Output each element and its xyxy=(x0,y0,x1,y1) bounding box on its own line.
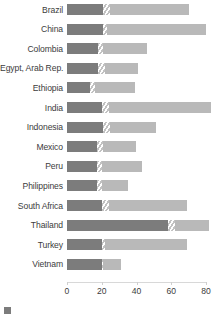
bar-brazil[interactable] xyxy=(65,4,222,15)
bar-segment-light xyxy=(105,63,138,74)
chart-legend xyxy=(4,306,222,314)
chart-row: Peru xyxy=(0,161,222,172)
x-axis-tick xyxy=(206,282,207,285)
bar-segment-light xyxy=(105,239,187,250)
bar-segment-dark xyxy=(67,200,102,211)
bar-south-africa[interactable] xyxy=(65,200,222,211)
category-label-china: China xyxy=(0,24,65,34)
category-label-south-africa: South Africa xyxy=(0,201,65,211)
plot-area: BrazilChinaColombiaEgypt, Arab Rep.Ethio… xyxy=(0,0,222,282)
bar-segment-light xyxy=(107,24,206,35)
bar-segment-dark xyxy=(67,43,98,54)
bar-indonesia[interactable] xyxy=(65,122,222,133)
chart-row: China xyxy=(0,24,222,35)
bar-segment-light xyxy=(110,122,155,133)
bar-segment-light xyxy=(102,161,142,172)
category-label-vietnam: Vietnam xyxy=(0,259,65,269)
bar-segment-dark xyxy=(67,63,98,74)
chart-row: Mexico xyxy=(0,141,222,152)
bar-segment-light xyxy=(102,180,128,191)
chart-row: Colombia xyxy=(0,43,222,54)
category-label-brazil: Brazil xyxy=(0,5,65,15)
chart-row: Turkey xyxy=(0,239,222,250)
bar-segment-hatched xyxy=(102,102,109,113)
x-axis-tick xyxy=(137,282,138,285)
x-axis-tick-label: 0 xyxy=(65,286,70,296)
chart-row: Thailand xyxy=(0,220,222,231)
bar-segment-light xyxy=(109,200,187,211)
bar-peru[interactable] xyxy=(65,161,222,172)
category-label-mexico: Mexico xyxy=(0,142,65,152)
category-label-thailand: Thailand xyxy=(0,220,65,230)
x-axis-tick-label: 20 xyxy=(97,286,107,296)
category-label-indonesia: Indonesia xyxy=(0,122,65,132)
bar-india[interactable] xyxy=(65,102,222,113)
chart-row: Vietnam xyxy=(0,259,222,270)
x-axis-tick-label: 60 xyxy=(166,286,176,296)
bar-segment-dark xyxy=(67,239,102,250)
bar-segment-hatched xyxy=(98,63,105,74)
bar-ethiopia[interactable] xyxy=(65,82,222,93)
bar-segment-dark xyxy=(67,161,97,172)
bar-segment-hatched xyxy=(168,220,175,231)
category-label-colombia: Colombia xyxy=(0,44,65,54)
bar-china[interactable] xyxy=(65,24,222,35)
bar-segment-light xyxy=(103,43,146,54)
category-label-egypt-arab-rep: Egypt, Arab Rep. xyxy=(0,63,65,73)
category-label-turkey: Turkey xyxy=(0,240,65,250)
x-axis-tick xyxy=(171,282,172,285)
bar-segment-light xyxy=(109,102,212,113)
bar-colombia[interactable] xyxy=(65,43,222,54)
chart-row: Brazil xyxy=(0,4,222,15)
category-label-india: India xyxy=(0,103,65,113)
x-axis-tick-label: 80 xyxy=(201,286,211,296)
bar-segment-dark xyxy=(67,82,90,93)
bar-segment-light xyxy=(175,220,210,231)
bar-segment-light xyxy=(95,82,135,93)
category-label-philippines: Philippines xyxy=(0,181,65,191)
bar-segment-hatched xyxy=(103,4,110,15)
bar-segment-dark xyxy=(67,220,168,231)
bar-segment-light xyxy=(103,259,120,270)
bar-thailand[interactable] xyxy=(65,220,222,231)
chart-row: Egypt, Arab Rep. xyxy=(0,63,222,74)
bar-segment-dark xyxy=(67,4,103,15)
bar-segment-dark xyxy=(67,102,102,113)
bar-egypt-arab-rep[interactable] xyxy=(65,63,222,74)
bar-segment-dark xyxy=(67,122,103,133)
x-axis-tick-label: 40 xyxy=(132,286,142,296)
chart-row: India xyxy=(0,102,222,113)
bar-segment-hatched xyxy=(102,200,109,211)
bar-segment-hatched xyxy=(97,141,104,152)
bar-segment-dark xyxy=(67,141,97,152)
chart-row: Indonesia xyxy=(0,122,222,133)
bar-mexico[interactable] xyxy=(65,141,222,152)
x-axis-tick xyxy=(67,282,68,285)
legend-swatch-icon xyxy=(4,307,11,314)
x-axis-tick xyxy=(102,282,103,285)
chart-row: South Africa xyxy=(0,200,222,211)
category-label-ethiopia: Ethiopia xyxy=(0,83,65,93)
chart-row: Philippines xyxy=(0,180,222,191)
bar-segment-hatched xyxy=(103,122,110,133)
bar-segment-light xyxy=(110,4,188,15)
bar-philippines[interactable] xyxy=(65,180,222,191)
bar-segment-light xyxy=(103,141,136,152)
chart-row: Ethiopia xyxy=(0,82,222,93)
bar-segment-dark xyxy=(67,24,103,35)
category-label-peru: Peru xyxy=(0,161,65,171)
bar-segment-dark xyxy=(67,259,102,270)
bar-segment-dark xyxy=(67,180,97,191)
bar-turkey[interactable] xyxy=(65,239,222,250)
bar-vietnam[interactable] xyxy=(65,259,222,270)
